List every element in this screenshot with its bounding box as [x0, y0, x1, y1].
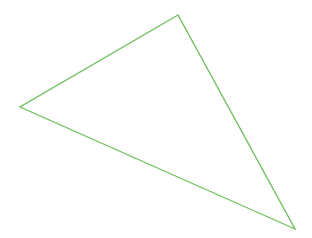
triangle-outline — [20, 15, 295, 229]
diagram-canvas — [0, 0, 312, 238]
